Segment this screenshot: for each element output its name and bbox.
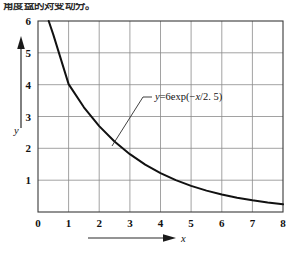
x-axis-label: x bbox=[180, 233, 186, 244]
x-tick-2: 2 bbox=[96, 217, 102, 229]
y-axis-label: y bbox=[13, 125, 19, 136]
x-tick-0: 0 bbox=[35, 217, 41, 229]
x-axis-arrow-icon bbox=[88, 234, 176, 242]
x-tick-1: 1 bbox=[66, 217, 72, 229]
x-tick-8: 8 bbox=[280, 217, 286, 229]
figure-container: 角度盘的对变动分。 bbox=[0, 0, 300, 257]
exponential-decay-chart: y=6exp(−x/2. 5) 0 1 2 3 4 5 6 7 8 1 2 3 … bbox=[0, 0, 300, 257]
y-tick-3: 3 bbox=[26, 111, 32, 123]
y-tick-4: 4 bbox=[26, 79, 32, 91]
y-tick-labels: 1 2 3 4 5 6 bbox=[26, 15, 32, 186]
x-tick-7: 7 bbox=[250, 217, 256, 229]
x-tick-4: 4 bbox=[158, 217, 164, 229]
y-tick-2: 2 bbox=[26, 142, 32, 154]
x-tick-3: 3 bbox=[127, 217, 133, 229]
y-tick-6: 6 bbox=[26, 15, 32, 27]
y-axis-arrow-icon bbox=[17, 36, 25, 128]
y-tick-1: 1 bbox=[26, 174, 32, 186]
curve-equation-label: y=6exp(−x/2. 5) bbox=[154, 91, 223, 103]
x-tick-5: 5 bbox=[188, 217, 194, 229]
y-tick-5: 5 bbox=[26, 47, 32, 59]
x-tick-6: 6 bbox=[219, 217, 225, 229]
x-tick-labels: 0 1 2 3 4 5 6 7 8 bbox=[35, 217, 286, 229]
